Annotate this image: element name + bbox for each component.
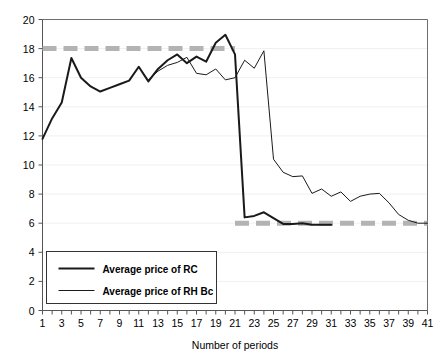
y-tick-label: 4 [29, 246, 35, 258]
x-tick-label: 19 [210, 317, 222, 329]
x-tick-label: 3 [59, 317, 65, 329]
x-axis-title: Number of periods [192, 339, 278, 351]
y-tick-label: 10 [23, 159, 35, 171]
y-tick-label: 14 [23, 101, 35, 113]
x-tick-label: 41 [422, 317, 434, 329]
x-tick-label: 27 [287, 317, 299, 329]
y-tick-label: 20 [23, 14, 35, 26]
x-tick-label: 15 [171, 317, 183, 329]
legend: Average price of RCAverage price of RH B… [47, 252, 217, 304]
line-chart: 0246810121416182013579111315171921232527… [0, 0, 444, 360]
x-tick-label: 11 [133, 317, 144, 329]
x-tick-label: 5 [78, 317, 84, 329]
x-axis: 1357911131517192123252729313335373941 [40, 311, 434, 329]
x-tick-label: 31 [325, 317, 337, 329]
x-tick-label: 39 [402, 317, 414, 329]
y-tick-label: 16 [23, 72, 35, 84]
legend-label-1: Average price of RH Bc [103, 286, 214, 297]
x-tick-label: 29 [306, 317, 318, 329]
y-tick-label: 0 [29, 305, 35, 317]
x-tick-label: 23 [248, 317, 260, 329]
y-tick-label: 2 [29, 275, 35, 287]
y-axis: 02468101214161820 [23, 14, 43, 317]
x-tick-label: 17 [191, 317, 203, 329]
legend-label-0: Average price of RC [103, 264, 198, 275]
y-tick-label: 12 [23, 130, 35, 142]
series-line-1 [148, 51, 427, 223]
x-tick-label: 25 [268, 317, 280, 329]
series-group [43, 35, 428, 225]
x-tick-label: 13 [152, 317, 164, 329]
x-tick-label: 35 [364, 317, 376, 329]
x-tick-label: 1 [40, 317, 46, 329]
x-tick-label: 9 [117, 317, 123, 329]
y-tick-label: 6 [29, 217, 35, 229]
x-tick-label: 7 [97, 317, 103, 329]
y-tick-label: 18 [23, 43, 35, 55]
y-tick-label: 8 [29, 188, 35, 200]
x-tick-label: 33 [345, 317, 357, 329]
chart-container: 0246810121416182013579111315171921232527… [0, 0, 444, 360]
series-line-0 [43, 35, 332, 225]
x-tick-label: 37 [383, 317, 395, 329]
x-tick-label: 21 [229, 317, 241, 329]
